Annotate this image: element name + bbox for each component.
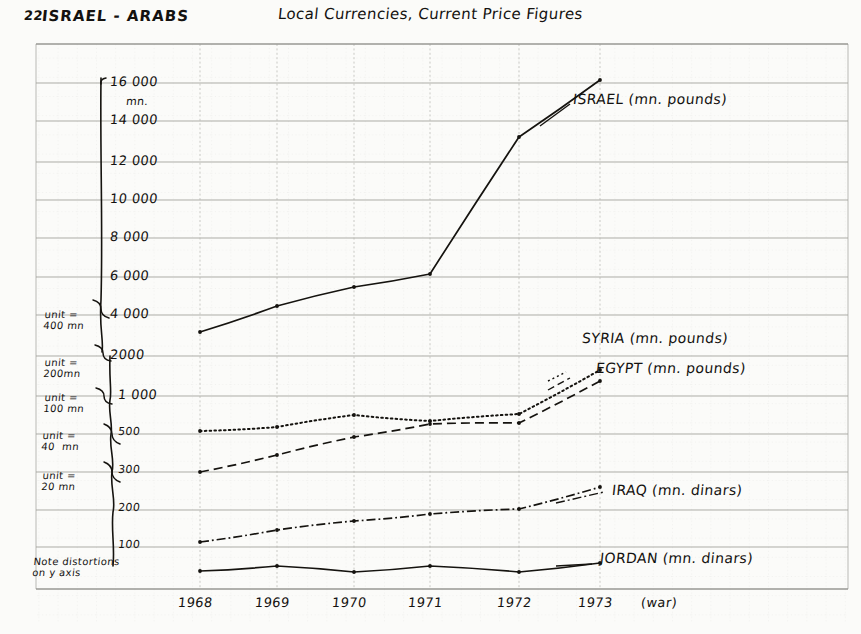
data-point [198, 470, 202, 474]
data-point [598, 78, 602, 82]
series-label-iraq: IRAQ (mn. dinars) [611, 482, 743, 498]
y-tick-label: 6 000 [109, 268, 150, 283]
series-label-israel: ISRAEL (mn. pounds) [572, 91, 728, 107]
data-point [352, 435, 356, 439]
x-tick-label: 1972 [496, 595, 532, 610]
war-annotation: (war) [640, 595, 678, 610]
series-label-syria: SYRIA (mn. pounds) [581, 330, 729, 346]
x-tick-label: 1968 [177, 595, 213, 610]
unit-annotation: unit = 400 mn [43, 309, 86, 331]
y-tick-label: 16 000 [109, 74, 158, 89]
data-point [198, 540, 202, 544]
series-label-jordan: JORDAN (mn. dinars) [599, 550, 754, 566]
page-title: ISRAEL - ARABS [41, 7, 190, 25]
data-point [428, 512, 432, 516]
data-point [517, 421, 521, 425]
data-point [198, 330, 202, 334]
unit-annotation: unit = 100 mn [43, 392, 86, 414]
data-point [517, 507, 521, 511]
data-point [598, 485, 602, 489]
y-tick-label: 300 [117, 463, 141, 476]
data-point [198, 569, 202, 573]
data-point [275, 564, 279, 568]
data-point [517, 412, 521, 416]
data-point [275, 425, 279, 429]
axis-distortion-note: Note distortions on y axis [32, 556, 120, 578]
data-point [428, 272, 432, 276]
series-label-egypt: EGYPT (mn. pounds) [595, 360, 747, 376]
data-point [428, 419, 432, 423]
x-tick-label: 1969 [254, 595, 290, 610]
y-tick-label: 200 [117, 501, 141, 514]
data-point [275, 528, 279, 532]
data-point [352, 285, 356, 289]
x-tick-label: 1973 [577, 595, 613, 610]
data-point [352, 413, 356, 417]
unit-annotation: unit = 40 mn [41, 430, 81, 452]
x-tick-label: 1970 [331, 595, 367, 610]
y-tick-label: 1 000 [117, 387, 158, 402]
y-tick-label: 500 [117, 425, 141, 438]
data-point [275, 453, 279, 457]
y-axis-unit-suffix: mn. [125, 95, 149, 108]
y-tick-label: 100 [117, 538, 141, 551]
unit-annotation: unit = 20 mn [41, 470, 77, 492]
data-point [352, 519, 356, 523]
data-point [198, 429, 202, 433]
y-tick-label: 4 000 [109, 306, 150, 321]
y-tick-label: 10 000 [109, 191, 158, 206]
chart-sheet: 22 ISRAEL - ARABS Local Currencies, Curr… [0, 0, 861, 634]
y-tick-label: 14 000 [109, 112, 158, 127]
x-tick-label: 1971 [407, 595, 443, 610]
y-tick-label: 12 000 [109, 153, 158, 168]
data-point [517, 135, 521, 139]
unit-annotation: unit = 200mn [43, 357, 82, 379]
data-point [517, 570, 521, 574]
y-tick-label: 2000 [109, 347, 145, 362]
chart-title: Local Currencies, Current Price Figures [277, 5, 584, 23]
y-tick-label: 8 000 [109, 229, 150, 244]
data-point [352, 570, 356, 574]
data-point [598, 379, 602, 383]
data-point [275, 304, 279, 308]
data-point [428, 564, 432, 568]
